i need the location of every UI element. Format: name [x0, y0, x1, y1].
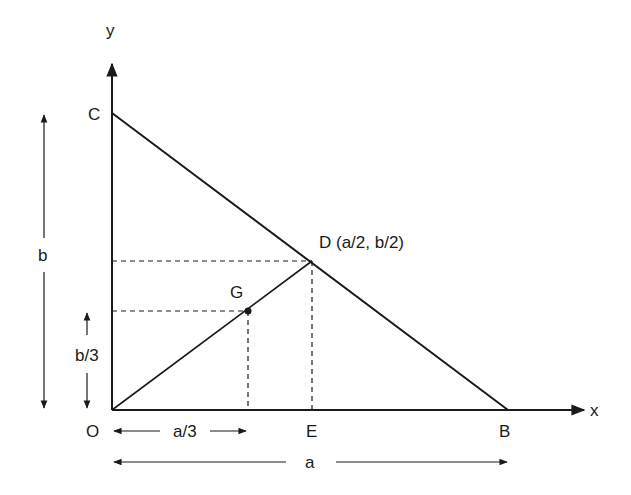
point-o-label: O: [86, 422, 99, 441]
dimension-b-label: b: [38, 246, 47, 265]
dimension-a-label: a: [305, 453, 315, 472]
median-od: [112, 261, 312, 410]
y-axis-label: y: [106, 21, 115, 40]
point-b-label: B: [499, 422, 510, 441]
dimension-b-third-label: b/3: [75, 346, 99, 365]
triangle-centroid-diagram: y x C D (a/2, b/2) G O E B b b/3 a/3 a: [0, 0, 631, 495]
point-c-label: C: [88, 105, 100, 124]
centroid-point: [245, 308, 252, 315]
point-g-label: G: [230, 283, 243, 302]
dimension-a-third-label: a/3: [173, 422, 197, 441]
point-e-label: E: [306, 422, 317, 441]
point-d-label: D (a/2, b/2): [319, 233, 404, 252]
x-axis-label: x: [590, 401, 599, 420]
